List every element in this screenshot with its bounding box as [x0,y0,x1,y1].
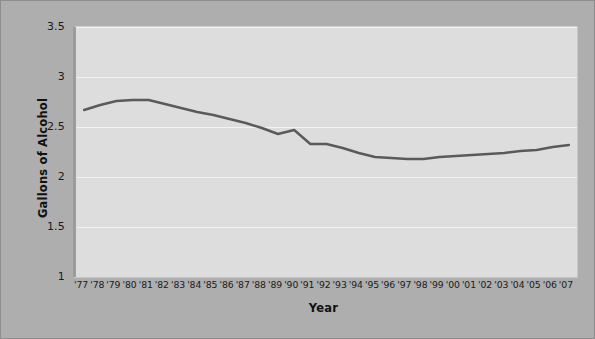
x-tick-label: '87 [236,279,250,290]
y-tick-label: 3.5 [29,20,65,33]
x-tick-label: '82 [155,279,169,290]
x-tick-label: '03 [494,279,508,290]
x-tick-label: '91 [300,279,314,290]
x-tick-label: '05 [527,279,541,290]
x-tick-label: '99 [430,279,444,290]
x-tick-label: '79 [106,279,120,290]
x-tick-label: '81 [139,279,153,290]
x-tick-label: '95 [365,279,379,290]
x-tick-label: '98 [413,279,427,290]
x-tick-label: '97 [397,279,411,290]
chart-screenshot: Gallons of Alcohol 3.532.521.51 '77'78'7… [0,0,595,339]
y-tick-label: 3 [29,70,65,83]
y-tick-label: 2.5 [29,120,65,133]
y-tick-label: 1 [29,270,65,283]
x-tick-label: '92 [316,279,330,290]
y-axis-tick-labels: 3.532.521.51 [29,26,65,276]
series-polyline [84,100,569,159]
x-tick-label: '89 [268,279,282,290]
x-tick-label: '85 [203,279,217,290]
x-tick-label: '02 [478,279,492,290]
plot-area [73,26,577,277]
x-tick-label: '07 [559,279,573,290]
x-tick-label: '78 [90,279,104,290]
y-tick-label: 2 [29,170,65,183]
x-tick-label: '01 [462,279,476,290]
x-tick-label: '94 [349,279,363,290]
x-tick-label: '83 [171,279,185,290]
x-tick-label: '93 [333,279,347,290]
data-series-line [76,27,577,277]
x-tick-label: '06 [543,279,557,290]
x-axis-title: Year [73,301,574,315]
x-tick-label: '77 [74,279,88,290]
x-tick-label: '88 [252,279,266,290]
x-axis-tick-labels: '77'78'79'80'81'82'83'84'85'86'87'88'89'… [73,279,574,295]
x-tick-label: '90 [284,279,298,290]
x-tick-label: '80 [123,279,137,290]
y-tick-label: 1.5 [29,220,65,233]
x-tick-label: '84 [187,279,201,290]
x-tick-label: '96 [381,279,395,290]
x-tick-label: '86 [219,279,233,290]
x-tick-label: '00 [446,279,460,290]
x-tick-label: '04 [510,279,524,290]
